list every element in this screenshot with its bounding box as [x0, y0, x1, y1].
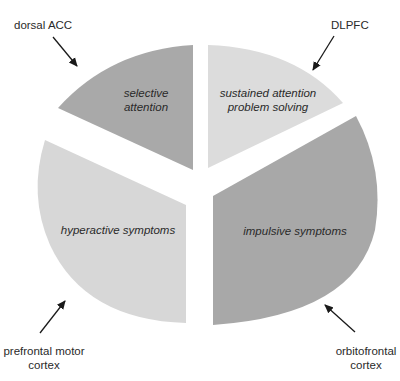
- region-label-dorsal-acc: dorsal ACC: [14, 19, 72, 31]
- arrow-dlpfc: [313, 36, 334, 70]
- slice-label-problem-solving: problem solving: [227, 101, 309, 113]
- region-label-prefrontal-motor: prefrontal motor: [3, 345, 84, 357]
- slice-label-hyperactive: hyperactive symptoms: [61, 224, 176, 236]
- region-label-prefrontal-cortex: cortex: [28, 359, 60, 371]
- slice-label-impulsive: impulsive symptoms: [243, 225, 347, 237]
- slice-label-selective: selective: [124, 87, 169, 99]
- pie-diagram: selective attention sustained attention …: [0, 0, 400, 381]
- slice-label-sustained-attention: sustained attention: [220, 87, 317, 99]
- region-label-orbitofrontal-cortex: cortex: [350, 359, 382, 371]
- slice-label-attention: attention: [124, 101, 168, 113]
- region-label-orbitofrontal: orbitofrontal: [336, 345, 397, 357]
- region-label-dlpfc: DLPFC: [331, 19, 369, 31]
- arrow-orbitofrontal-cortex: [325, 305, 355, 332]
- arrow-dorsal-acc: [53, 37, 77, 66]
- arrow-prefrontal-motor-cortex: [40, 301, 65, 333]
